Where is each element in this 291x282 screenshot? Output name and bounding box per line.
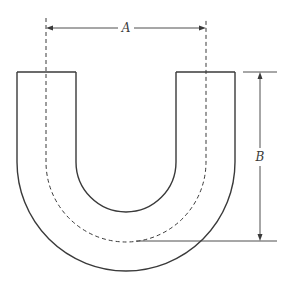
dimension-b-arrow-top-icon xyxy=(258,72,263,79)
tube-centerline xyxy=(46,18,206,242)
dimension-b-arrow-bottom-icon xyxy=(258,234,263,241)
dimension-a-arrow-left-icon xyxy=(46,26,53,31)
dimension-a-label: A xyxy=(121,21,131,35)
u-bend-diagram: A B xyxy=(0,0,291,282)
tube-inner-wall xyxy=(76,72,176,212)
dimension-a-arrow-right-icon xyxy=(199,26,206,31)
dimension-b-label: B xyxy=(255,150,265,164)
